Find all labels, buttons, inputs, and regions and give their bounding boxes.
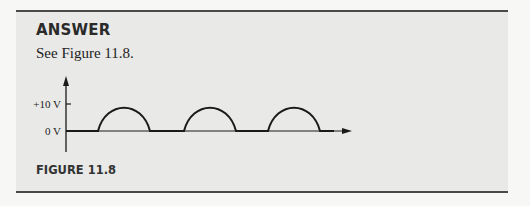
x-axis-arrow-icon [342, 128, 352, 134]
y-tick-label-10v: +10 V [33, 98, 61, 110]
waveform-chart: +10 V 0 V [0, 0, 530, 206]
y-axis-arrow-icon [63, 76, 69, 86]
y-tick-label-0v: 0 V [45, 125, 61, 137]
waveform-line [66, 108, 334, 131]
